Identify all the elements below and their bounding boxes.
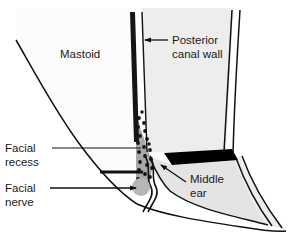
ear-canal-lumen — [142, 12, 233, 152]
anatomy-figure: Mastoid Posterior canal wall Facial rece… — [0, 0, 299, 237]
label-facial-recess-line1: Facial — [5, 142, 36, 154]
label-middle-ear-line1: Middle — [190, 173, 224, 185]
label-mastoid: Mastoid — [60, 48, 100, 60]
canal-upper-fill — [142, 8, 234, 18]
facial-recess-diagram: Mastoid Posterior canal wall Facial rece… — [0, 0, 299, 237]
label-facial-nerve-line2: nerve — [5, 196, 34, 208]
label-middle-ear-line2: ear — [190, 187, 207, 199]
label-facial-nerve-line1: Facial — [5, 182, 36, 194]
label-posterior-canal-wall-line1: Posterior — [172, 34, 218, 46]
label-posterior-canal-wall-line2: canal wall — [172, 48, 223, 60]
facial-nerve-circle — [132, 178, 150, 196]
label-facial-recess-line2: recess — [5, 156, 39, 168]
